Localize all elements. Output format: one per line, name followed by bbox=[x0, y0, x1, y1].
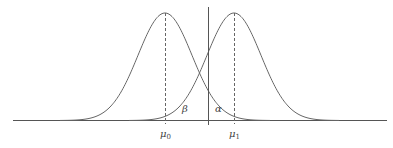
beta-label: β bbox=[181, 103, 188, 114]
alpha-label: α bbox=[215, 103, 222, 114]
normal-curves-diagram: β α μ0 μ1 bbox=[0, 0, 393, 148]
mu0-label: μ0 bbox=[160, 128, 171, 141]
mu1-label: μ1 bbox=[229, 128, 240, 141]
